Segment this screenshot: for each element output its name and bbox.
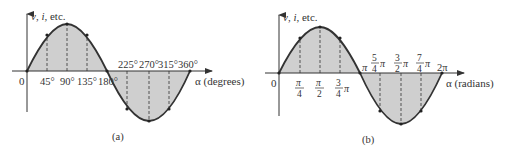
svg-text:4: 4 bbox=[372, 64, 377, 74]
svg-text:5: 5 bbox=[372, 53, 377, 63]
tick-5pi-over-4: 5 4 π bbox=[371, 53, 386, 74]
origin-label: 0 bbox=[271, 77, 277, 89]
svg-text:π: π bbox=[425, 58, 431, 69]
origin-label: 0 bbox=[19, 75, 25, 87]
svg-text:3: 3 bbox=[336, 78, 341, 88]
svg-text:4: 4 bbox=[297, 89, 302, 99]
svg-text:7: 7 bbox=[417, 53, 422, 63]
svg-text:π: π bbox=[296, 78, 301, 88]
y-axis-label: v, i, etc. bbox=[283, 11, 318, 23]
svg-text:4: 4 bbox=[336, 89, 341, 99]
tick-pi: π bbox=[362, 62, 368, 73]
svg-text:3: 3 bbox=[395, 53, 400, 63]
tick-90: 90° bbox=[60, 76, 75, 87]
x-axis-label: α (radians) bbox=[446, 77, 494, 90]
svg-text:π: π bbox=[380, 58, 386, 69]
svg-text:4: 4 bbox=[417, 64, 422, 74]
tick-135: 135° bbox=[77, 76, 97, 87]
tick-360: 360° bbox=[178, 59, 198, 70]
caption-a: (a) bbox=[112, 131, 124, 143]
panel-b-radians: v, i, etc. 0 π 4 π 2 3 4 π π 5 4 π bbox=[265, 11, 494, 146]
tick-225: 225° bbox=[118, 59, 138, 70]
tick-7pi-over-4: 7 4 π bbox=[416, 53, 431, 74]
svg-text:2: 2 bbox=[317, 89, 322, 99]
tick-180: 180° bbox=[98, 76, 118, 87]
y-axis-label: v, i, etc. bbox=[31, 10, 66, 22]
tick-2pi: 2π bbox=[437, 62, 448, 73]
x-axis-label: α (degrees) bbox=[195, 75, 245, 88]
tick-pi-over-2: π 2 bbox=[315, 78, 324, 99]
tick-3pi-over-2: 3 2 π bbox=[394, 53, 409, 74]
svg-text:π: π bbox=[403, 58, 409, 69]
svg-text:2: 2 bbox=[395, 64, 400, 74]
svg-text:π: π bbox=[316, 78, 321, 88]
caption-b: (b) bbox=[362, 134, 375, 146]
tick-315: 315° bbox=[158, 59, 178, 70]
tick-3pi-over-4: 3 4 π bbox=[335, 78, 350, 99]
tick-270: 270° bbox=[139, 59, 159, 70]
svg-text:π: π bbox=[344, 83, 350, 94]
sine-wave-figure: v, i, etc. 0 45° 90° 135° 180° 225° 270°… bbox=[0, 0, 506, 154]
tick-45: 45° bbox=[40, 76, 55, 87]
panel-a-degrees: v, i, etc. 0 45° 90° 135° 180° 225° 270°… bbox=[12, 10, 245, 143]
tick-pi-over-4: π 4 bbox=[295, 78, 304, 99]
